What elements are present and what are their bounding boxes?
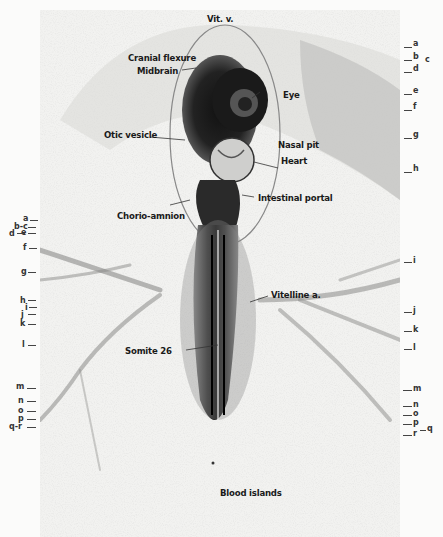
level-marker: a xyxy=(413,39,418,48)
embryo-figure: Vit. v. Cranial flexure Midbrain Eye Oti… xyxy=(0,0,443,537)
level-marker: l xyxy=(22,340,25,349)
level-marker: j xyxy=(21,310,24,319)
level-marker: h xyxy=(413,164,419,173)
label-vit-v: Vit. v. xyxy=(207,13,233,24)
level-marker: b xyxy=(413,52,419,61)
label-eye: Eye xyxy=(283,89,300,100)
level-marker: d xyxy=(9,229,15,238)
level-marker: p xyxy=(413,418,419,427)
label-chorio-amnion: Chorio-amnion xyxy=(117,210,185,221)
level-marker: q-r xyxy=(9,422,22,431)
label-somite-26: Somite 26 xyxy=(125,345,172,356)
level-marker: c xyxy=(425,55,430,64)
level-marker: r xyxy=(413,429,417,438)
level-marker: o xyxy=(413,409,419,418)
level-marker: q xyxy=(427,424,433,433)
level-marker: g xyxy=(413,130,419,139)
level-marker: f xyxy=(413,102,416,111)
embryo-photograph xyxy=(40,10,400,537)
level-marker: l xyxy=(413,343,416,352)
level-marker: k xyxy=(20,319,25,328)
level-marker: n xyxy=(413,400,419,409)
label-heart: Heart xyxy=(281,155,307,166)
label-vitelline-a: Vitelline a. xyxy=(271,289,321,300)
label-intestinal-portal: Intestinal portal xyxy=(258,192,333,203)
level-marker: f xyxy=(23,243,26,252)
label-cranial-flexure: Cranial flexure xyxy=(128,52,196,63)
level-marker: g xyxy=(21,267,27,276)
label-otic-vesicle: Otic vesicle xyxy=(104,129,157,140)
label-blood-islands: Blood islands xyxy=(220,487,282,498)
level-marker: m xyxy=(16,382,24,391)
level-marker: i xyxy=(413,256,416,265)
level-marker: k xyxy=(413,325,418,334)
level-marker: i xyxy=(25,303,28,312)
level-marker: j xyxy=(413,306,416,315)
label-nasal-pit: Nasal pit xyxy=(278,139,319,150)
label-midbrain: Midbrain xyxy=(137,65,178,76)
level-marker: n xyxy=(18,396,24,405)
level-marker: m xyxy=(413,384,421,393)
level-marker: d xyxy=(413,64,419,73)
level-marker: e xyxy=(413,86,418,95)
